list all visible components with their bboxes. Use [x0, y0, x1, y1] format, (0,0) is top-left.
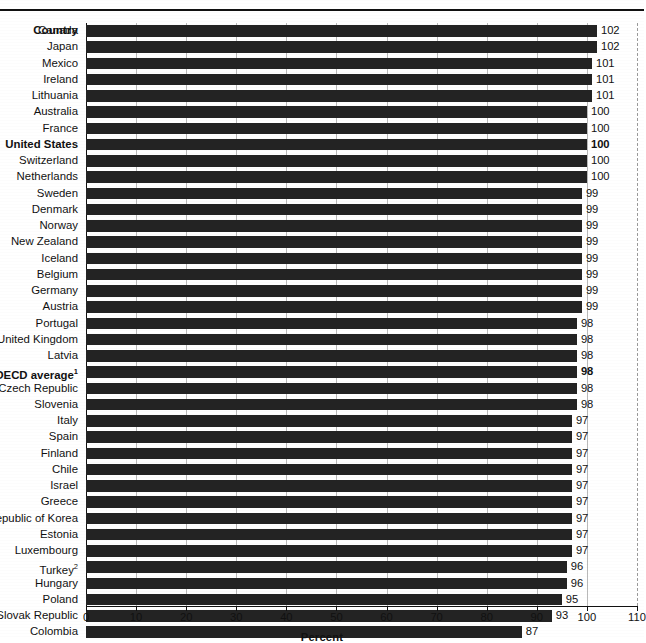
country-label: Switzerland — [0, 154, 78, 167]
footnote-marker: 2 — [74, 562, 78, 571]
tick-label-110: 110 — [628, 611, 646, 623]
country-label: Republic of Korea — [0, 512, 78, 525]
bar-value-label: 102 — [601, 24, 620, 37]
table-row: Hungary96 — [0, 576, 644, 592]
country-label: Canada — [0, 24, 78, 37]
country-label: Denmark — [0, 203, 78, 216]
table-row: Portugal98 — [0, 316, 644, 332]
bar-value-label: 97 — [576, 495, 588, 508]
bar — [86, 334, 577, 345]
table-row: Austria99 — [0, 299, 644, 315]
table-row: New Zealand99 — [0, 234, 644, 250]
table-row: Mexico101 — [0, 56, 644, 72]
bar — [86, 204, 582, 215]
country-label: Spain — [0, 430, 78, 443]
bar-value-label: 98 — [581, 317, 593, 330]
bar-value-label: 99 — [586, 284, 598, 297]
country-label: Chile — [0, 463, 78, 476]
bar — [86, 545, 572, 556]
bar — [86, 448, 572, 459]
clipped-caption-above-rule — [86, 0, 626, 6]
bar-value-label: 100 — [591, 138, 610, 151]
bar-value-label: 100 — [591, 105, 610, 118]
bar-value-label: 97 — [576, 414, 588, 427]
bar — [86, 578, 567, 589]
x-axis-line — [86, 606, 637, 607]
table-row: Slovak Republic93 — [0, 608, 644, 624]
country-label: Greece — [0, 495, 78, 508]
country-label: Ireland — [0, 73, 78, 86]
table-row: OECD average198 — [0, 364, 644, 380]
table-row: Israel97 — [0, 478, 644, 494]
country-label: Iceland — [0, 252, 78, 265]
table-row: Estonia97 — [0, 527, 644, 543]
country-label: France — [0, 122, 78, 135]
bar — [86, 301, 582, 312]
tick-label-30: 30 — [230, 611, 242, 623]
bar — [86, 188, 582, 199]
table-row: Belgium99 — [0, 267, 644, 283]
bar-value-label: 97 — [576, 528, 588, 541]
bar-value-label: 100 — [591, 122, 610, 135]
bar — [86, 236, 582, 247]
table-row: Germany99 — [0, 283, 644, 299]
table-row: Finland97 — [0, 446, 644, 462]
bar-value-label: 97 — [576, 479, 588, 492]
bar-value-label: 100 — [591, 154, 610, 167]
table-row: France100 — [0, 121, 644, 137]
bar-value-label: 98 — [581, 333, 593, 346]
bar — [86, 399, 577, 410]
table-row: Iceland99 — [0, 251, 644, 267]
table-row: Sweden99 — [0, 186, 644, 202]
country-label: Netherlands — [0, 170, 78, 183]
bar — [86, 41, 597, 52]
tick-label-0: 0 — [83, 611, 89, 623]
bar-value-label: 97 — [576, 447, 588, 460]
bar-value-label: 99 — [586, 203, 598, 216]
table-row: United Kingdom98 — [0, 332, 644, 348]
bar-value-label: 93 — [556, 609, 568, 622]
table-row: Ireland101 — [0, 72, 644, 88]
bar-value-label: 99 — [586, 268, 598, 281]
bar — [86, 90, 592, 101]
table-row: Luxembourg97 — [0, 543, 644, 559]
bar — [86, 139, 587, 150]
country-label: Lithuania — [0, 89, 78, 102]
bar — [86, 415, 572, 426]
tick-label-100: 100 — [578, 611, 597, 623]
table-row: Norway99 — [0, 218, 644, 234]
country-label: Finland — [0, 447, 78, 460]
country-label: New Zealand — [0, 235, 78, 248]
bar — [86, 155, 587, 166]
table-row: Czech Republic98 — [0, 381, 644, 397]
table-row: Latvia98 — [0, 348, 644, 364]
country-label: Norway — [0, 219, 78, 232]
bar — [86, 269, 582, 280]
country-label: United Kingdom — [0, 333, 78, 346]
footnote-marker: 1 — [74, 367, 78, 376]
bar-value-label: 97 — [576, 463, 588, 476]
bar-value-label: 99 — [586, 300, 598, 313]
bar-value-label: 101 — [596, 89, 615, 102]
table-row: Chile97 — [0, 462, 644, 478]
table-row: Canada102 — [0, 23, 644, 39]
country-label: Czech Republic — [0, 382, 78, 395]
country-label: Belgium — [0, 268, 78, 281]
tick-label-90: 90 — [531, 611, 543, 623]
bar-value-label: 97 — [576, 512, 588, 525]
bar — [86, 220, 582, 231]
country-label: Austria — [0, 300, 78, 313]
bar-value-label: 96 — [571, 560, 583, 573]
country-label: Latvia — [0, 349, 78, 362]
country-label: Portugal — [0, 317, 78, 330]
country-label: United States — [0, 138, 78, 151]
bar — [86, 480, 572, 491]
country-label: Slovenia — [0, 398, 78, 411]
country-label: Poland — [0, 593, 78, 606]
table-row: Australia100 — [0, 104, 644, 120]
bar-value-label: 97 — [576, 430, 588, 443]
country-label: Luxembourg — [0, 544, 78, 557]
bar — [86, 366, 577, 377]
table-row: Netherlands100 — [0, 169, 644, 185]
bar-value-label: 101 — [596, 57, 615, 70]
